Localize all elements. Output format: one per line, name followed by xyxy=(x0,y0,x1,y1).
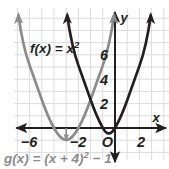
g-equation-base: g(x) = (x + 4) xyxy=(3,151,84,166)
f-equation-base: f(x) = x xyxy=(30,41,74,56)
g-equation-label: g(x) = (x + 4)2 − 1 xyxy=(3,149,112,166)
g-equation-tail: − 1 xyxy=(89,151,112,166)
x-tick-label-2: 2 xyxy=(136,134,145,150)
f-equation-exponent: 2 xyxy=(73,39,80,50)
coordinate-plane-svg: −6 −2 2 O 2 4 6 x y f(x) = x2 g(x) = (x … xyxy=(0,0,169,169)
f-equation-label: f(x) = x2 xyxy=(30,39,80,56)
graph-figure: −6 −2 2 O 2 4 6 x y f(x) = x2 g(x) = (x … xyxy=(0,0,169,169)
x-tick-label-neg6: −6 xyxy=(21,134,38,150)
y-axis-label: y xyxy=(119,10,128,25)
y-tick-label-2: 2 xyxy=(99,96,108,112)
x-tick-label-neg2: −2 xyxy=(70,134,87,150)
x-axis-label: x xyxy=(151,110,160,125)
y-tick-label-4: 4 xyxy=(99,72,108,88)
y-tick-label-6: 6 xyxy=(100,47,109,63)
origin-label: O xyxy=(102,134,114,150)
